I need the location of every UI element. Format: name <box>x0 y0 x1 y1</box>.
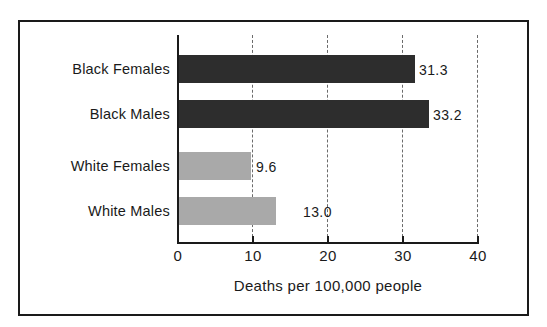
bar-value-black-females: 31.3 <box>419 62 448 78</box>
xtick-mark-0 <box>177 236 179 244</box>
gridline-40 <box>477 35 478 242</box>
chart-figure: 31.3 33.2 9.6 13.0 Black Females Black M… <box>0 0 547 327</box>
xtick-label-10: 10 <box>223 247 283 264</box>
category-label-white-females: White Females <box>0 158 170 174</box>
bar-white-males <box>179 197 276 225</box>
bar-black-females <box>179 55 415 83</box>
bar-white-females <box>179 152 251 180</box>
bar-value-black-males: 33.2 <box>433 107 462 123</box>
bar-black-males <box>179 100 429 128</box>
bar-value-white-males: 13.0 <box>303 204 332 220</box>
xtick-label-40: 40 <box>448 247 508 264</box>
xtick-label-0: 0 <box>148 247 208 264</box>
y-axis-spine <box>177 35 179 243</box>
xtick-label-30: 30 <box>373 247 433 264</box>
bar-value-white-females: 9.6 <box>256 159 277 175</box>
plot-area: 31.3 33.2 9.6 13.0 Black Females Black M… <box>0 0 547 327</box>
category-label-black-males: Black Males <box>0 106 170 122</box>
xtick-label-20: 20 <box>298 247 358 264</box>
xtick-mark-30 <box>402 236 404 244</box>
x-axis-title: Deaths per 100,000 people <box>177 277 479 294</box>
category-label-black-females: Black Females <box>0 61 170 77</box>
category-label-white-males: White Males <box>0 203 170 219</box>
xtick-mark-20 <box>327 236 329 244</box>
xtick-mark-10 <box>252 236 254 244</box>
xtick-mark-40 <box>477 236 479 244</box>
